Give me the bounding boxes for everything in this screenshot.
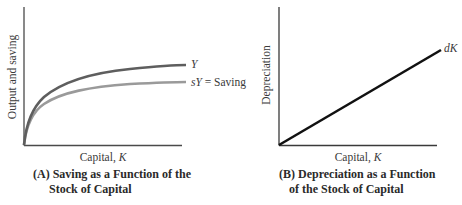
panel-b-caption-line-2: of the Stock of Capital: [289, 182, 404, 196]
panel-a-output-label: Y: [191, 58, 199, 70]
panel-a: Y sY = Saving Output and saving Capital,…: [6, 7, 246, 196]
panel-b-caption-line-1: (B) Depreciation as a Function: [279, 167, 436, 181]
panel-a-caption-line-2: Stock of Capital: [49, 182, 132, 196]
panel-a-output-curve: [24, 65, 186, 145]
panel-a-saving-label: sY = Saving: [191, 76, 246, 89]
panel-b-y-label: Depreciation: [260, 45, 273, 105]
panel-a-y-label: Output and saving: [6, 35, 19, 120]
panel-b-dk-label: dK: [444, 42, 459, 54]
panel-b-depreciation-line: [279, 50, 441, 145]
panel-b: dK Depreciation Capital, K (B) Depreciat…: [260, 7, 459, 196]
panel-a-saving-curve: [24, 82, 186, 145]
panel-a-x-label: Capital, K: [80, 151, 128, 164]
panel-b-x-label: Capital, K: [335, 151, 383, 164]
panel-a-caption-line-1: (A) Saving as a Function of the: [33, 167, 192, 181]
figure: Y sY = Saving Output and saving Capital,…: [0, 0, 462, 205]
